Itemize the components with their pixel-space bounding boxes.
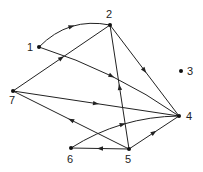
node-5 xyxy=(127,147,131,151)
node-label-7: 7 xyxy=(9,94,15,106)
node-label-4: 4 xyxy=(186,110,192,122)
node-6 xyxy=(69,146,73,150)
node-label-2: 2 xyxy=(106,8,112,20)
arrowhead-icon xyxy=(108,73,115,80)
node-label-6: 6 xyxy=(67,153,73,165)
node-1 xyxy=(37,45,41,49)
directed-graph: 1234567 xyxy=(0,0,203,172)
arrowhead-icon xyxy=(68,23,75,29)
node-label-3: 3 xyxy=(187,65,193,77)
node-3 xyxy=(179,69,183,73)
arrowhead-icon xyxy=(67,117,74,124)
arrowhead-icon xyxy=(97,146,103,151)
node-label-1: 1 xyxy=(27,41,33,53)
node-label-5: 5 xyxy=(125,153,131,165)
node-4 xyxy=(177,114,181,118)
node-7 xyxy=(11,89,15,93)
edges-layer xyxy=(13,23,179,150)
arrowhead-icon xyxy=(150,129,157,136)
edge-1-to-2 xyxy=(39,23,110,47)
node-2 xyxy=(108,23,112,27)
